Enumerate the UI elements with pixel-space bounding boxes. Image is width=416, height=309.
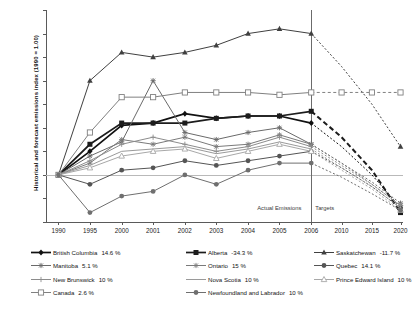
x-tick-mark — [248, 222, 249, 225]
legend-symbol-icon — [313, 261, 335, 270]
legend-symbol-icon — [30, 288, 52, 297]
x-tick-mark — [342, 222, 343, 225]
legend-label: Quebec — [336, 262, 357, 269]
x-axis-line — [46, 222, 403, 223]
legend-label: Prince Edward Island — [336, 276, 394, 283]
x-tick-mark — [58, 222, 59, 225]
x-tick-mark — [122, 222, 123, 225]
legend-target-value: 10 % — [99, 276, 113, 283]
legend-item-prince-edward-island[interactable]: Prince Edward Island10 % — [313, 273, 411, 286]
series-canada — [56, 90, 403, 178]
legend-label: Canada — [53, 289, 74, 296]
legend-symbol-icon — [30, 261, 52, 270]
x-tick-label: 1995 — [73, 227, 107, 234]
legend-target-value: 14.1 % — [361, 262, 380, 269]
x-tick-label: 2010 — [325, 227, 359, 234]
y-axis-title: Historical and forecast emissions index … — [33, 11, 39, 216]
series-newfoundland-and-labrador — [56, 161, 403, 215]
x-tick-label: 2005 — [262, 227, 296, 234]
legend-item-quebec[interactable]: Quebec14.1 % — [313, 260, 411, 273]
chart-legend: British Columbia14.6 %Alberta-34.3 %Sask… — [30, 246, 406, 299]
plot-area: 0.80.911.11.21.31.41.51.61.7 19901995200… — [46, 10, 403, 222]
legend-item-canada[interactable]: Canada2.6 % — [30, 287, 185, 300]
legend-item-new-brunswick[interactable]: New Brunswick10 % — [30, 273, 185, 286]
legend-target-value: 2.6 % — [78, 289, 94, 296]
legend-item-manitoba[interactable]: Manitoba5.1 % — [30, 260, 185, 273]
legend-target-value: -11.7 % — [380, 249, 401, 256]
x-tick-label: 1990 — [41, 227, 75, 234]
series-manitoba — [56, 78, 403, 206]
x-tick-mark — [90, 222, 91, 225]
legend-symbol-icon — [185, 288, 207, 297]
legend-symbol-icon — [30, 248, 52, 257]
series-saskatchewan — [56, 26, 404, 177]
legend-target-value: 10 % — [245, 276, 259, 283]
legend-target-value: 10 % — [289, 289, 303, 296]
legend-target-value: 5.1 % — [82, 262, 98, 269]
x-tick-mark — [372, 222, 373, 225]
legend-label: Nova Scotia — [208, 276, 241, 283]
legend-symbol-icon — [185, 261, 207, 270]
legend-item-saskatchewan[interactable]: Saskatchewan-11.7 % — [313, 246, 411, 259]
legend-symbol-icon — [313, 275, 335, 284]
legend-item-newfoundland-and-labrador[interactable]: Newfoundland and Labrador10 % — [185, 287, 313, 300]
legend-symbol-icon — [30, 275, 52, 284]
legend-item-nova-scotia[interactable]: Nova Scotia10 % — [185, 273, 313, 286]
series-layer — [46, 10, 403, 222]
legend-symbol-icon — [313, 248, 335, 257]
legend-target-value: 14.6 % — [101, 249, 120, 256]
legend-label: Manitoba — [53, 262, 78, 269]
legend-label: Newfoundland and Labrador — [208, 289, 285, 296]
x-tick-label: 2004 — [231, 227, 265, 234]
legend-label: Ontario — [208, 262, 228, 269]
x-tick-label: 2000 — [105, 227, 139, 234]
series-quebec — [56, 149, 403, 210]
series-alberta — [56, 109, 403, 215]
legend-item-british-columbia[interactable]: British Columbia14.6 % — [30, 246, 185, 259]
legend-target-value: 10 % — [398, 276, 412, 283]
legend-label: Alberta — [208, 249, 227, 256]
legend-label: British Columbia — [53, 249, 97, 256]
legend-item-ontario[interactable]: Ontario15 % — [185, 260, 313, 273]
legend-symbol-icon — [185, 275, 207, 284]
x-tick-mark — [401, 222, 402, 225]
x-tick-mark — [311, 222, 312, 225]
x-tick-label: 2003 — [199, 227, 233, 234]
x-tick-mark — [279, 222, 280, 225]
legend-label: Saskatchewan — [336, 249, 376, 256]
x-tick-mark — [185, 222, 186, 225]
x-tick-label: 2002 — [168, 227, 202, 234]
series-ontario — [56, 132, 403, 208]
legend-target-value: -34.3 % — [231, 249, 252, 256]
legend-target-value: 15 % — [232, 262, 246, 269]
y-tick-mark — [43, 222, 46, 223]
x-tick-mark — [216, 222, 217, 225]
x-tick-label: 2006 — [294, 227, 328, 234]
x-tick-label: 2001 — [136, 227, 170, 234]
annotation-actual-emissions: Actual Emissions — [257, 205, 301, 211]
legend-symbol-icon — [185, 248, 207, 257]
legend-item-alberta[interactable]: Alberta-34.3 % — [185, 246, 313, 259]
annotation-targets: Targets — [315, 205, 334, 211]
legend-label: New Brunswick — [53, 276, 95, 283]
x-tick-label: 2020 — [384, 227, 416, 234]
x-tick-mark — [153, 222, 154, 225]
